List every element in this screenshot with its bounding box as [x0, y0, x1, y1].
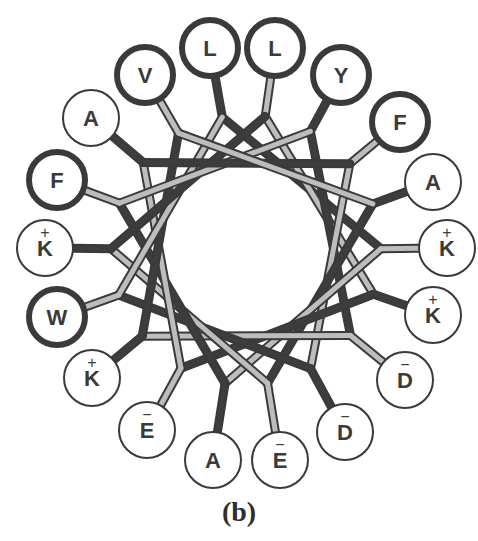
positive-charge-icon: +: [87, 354, 96, 371]
residue-f: F: [372, 94, 428, 150]
residue-label: A: [205, 448, 221, 473]
figure-caption: (b): [0, 496, 478, 528]
residue-a: A: [185, 432, 241, 488]
residue-l: L: [247, 20, 303, 76]
residue-a: A: [405, 154, 461, 210]
bond-line: [160, 368, 180, 405]
residue-d: D−: [317, 404, 373, 460]
residue-k: K+: [64, 350, 120, 406]
bond-line: [112, 136, 143, 162]
residue-k: K+: [405, 287, 461, 343]
residue-d: D−: [377, 352, 433, 408]
positive-charge-icon: +: [428, 291, 437, 308]
residue-label: Y: [334, 63, 349, 88]
residue-circles: LLYFAK+K+D−D−E−AE−K+WK+FAV: [17, 20, 475, 488]
residue-e: E−: [252, 432, 308, 488]
residue-f: F: [29, 152, 85, 208]
negative-charge-icon: −: [142, 406, 151, 423]
residue-e: E−: [119, 402, 175, 458]
residue-label: A: [83, 106, 99, 131]
helix-backbone-bonds: [73, 76, 419, 433]
bond-line: [143, 162, 350, 163]
residue-w: W: [29, 289, 85, 345]
residue-a: A: [63, 90, 119, 146]
bond-line: [351, 335, 384, 362]
bond-line: [114, 336, 143, 360]
negative-charge-icon: −: [340, 408, 349, 425]
residue-label: W: [47, 305, 68, 330]
residue-label: L: [203, 36, 216, 61]
residue-k: K+: [17, 220, 73, 276]
negative-charge-icon: −: [275, 436, 284, 453]
residue-label: F: [50, 168, 63, 193]
bond-line: [350, 140, 379, 164]
bond-line: [159, 99, 179, 133]
positive-charge-icon: +: [442, 224, 451, 241]
residue-label: V: [138, 63, 153, 88]
bond-line: [310, 100, 327, 132]
residue-v: V: [117, 47, 173, 103]
residue-k: K+: [419, 220, 475, 276]
negative-charge-icon: −: [400, 356, 409, 373]
bond-line: [311, 369, 332, 408]
positive-charge-icon: +: [40, 224, 49, 241]
residue-y: Y: [313, 47, 369, 103]
residue-label: A: [425, 170, 441, 195]
residue-l: L: [182, 20, 238, 76]
residue-label: F: [393, 110, 406, 135]
residue-label: L: [268, 36, 281, 61]
helical-wheel-diagram: LLYFAK+K+D−D−E−AE−K+WK+FAV: [0, 0, 478, 500]
